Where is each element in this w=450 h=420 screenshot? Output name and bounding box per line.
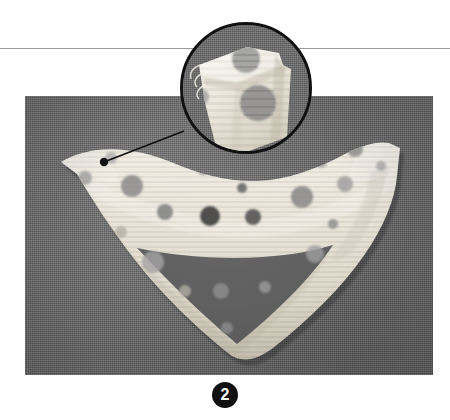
magnified-fabric: [183, 25, 309, 151]
figure-number-badge: 2: [212, 382, 238, 408]
leader-anchor-dot: [100, 158, 108, 166]
figure-page: 2: [0, 0, 450, 420]
figure-caption: 2: [0, 382, 450, 408]
magnifier-detail: [183, 25, 309, 151]
magnifier-callout: [180, 22, 312, 154]
